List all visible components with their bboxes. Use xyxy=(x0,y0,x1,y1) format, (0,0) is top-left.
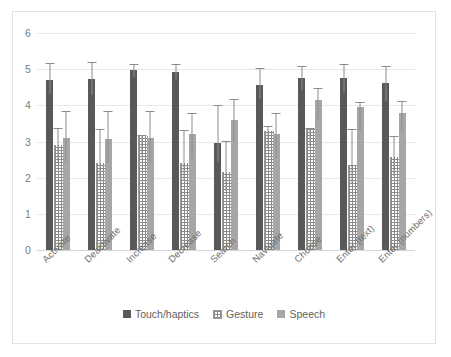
bar-slot xyxy=(130,33,137,250)
error-bar-cap-top xyxy=(305,128,314,129)
error-bar xyxy=(318,88,319,119)
bar-group xyxy=(205,33,247,250)
error-bar-cap-top xyxy=(381,66,390,67)
error-bar xyxy=(150,111,151,163)
bar-slot xyxy=(264,33,271,250)
error-bar-cap-top xyxy=(104,111,113,112)
bar-slot xyxy=(63,33,70,250)
error-bar-cap-top xyxy=(137,135,146,136)
bar-group xyxy=(121,33,163,250)
error-bar-cap-top xyxy=(389,136,398,137)
bar-group xyxy=(289,33,331,250)
bar-slot xyxy=(180,33,187,250)
bar[interactable] xyxy=(172,72,179,250)
error-bar xyxy=(49,63,50,95)
bar-slot xyxy=(222,33,229,250)
bar[interactable] xyxy=(340,78,347,250)
bar-group xyxy=(373,33,415,250)
bar-slot xyxy=(96,33,103,250)
error-bar xyxy=(402,101,403,131)
error-bar xyxy=(301,66,302,91)
bar-slot xyxy=(138,33,145,250)
y-axis-tick-label: 6 xyxy=(25,27,31,39)
error-bar xyxy=(393,136,394,176)
legend-swatch-touch-icon xyxy=(123,310,131,318)
error-bar xyxy=(276,113,277,157)
bar-slot xyxy=(172,33,179,250)
bar-slot xyxy=(147,33,154,250)
error-bar-cap-top xyxy=(179,130,188,131)
bar-slot xyxy=(390,33,397,250)
bar-slot xyxy=(214,33,221,250)
error-bar-cap-top xyxy=(230,99,239,100)
error-bar-cap-top xyxy=(146,111,155,112)
error-bar xyxy=(91,62,92,95)
error-bar-cap-top xyxy=(263,126,272,127)
legend-item[interactable]: Speech xyxy=(277,308,325,320)
error-bar-cap-top xyxy=(221,141,230,142)
bar[interactable] xyxy=(130,70,137,250)
error-bar xyxy=(385,66,386,101)
error-bar xyxy=(351,129,352,183)
legend-swatch-gesture-icon xyxy=(213,310,222,319)
error-bar-cap-top xyxy=(297,66,306,67)
error-bar-cap-top xyxy=(171,64,180,65)
bar-slot xyxy=(231,33,238,250)
error-bar xyxy=(225,141,226,192)
error-bar xyxy=(99,129,100,181)
bar-slot xyxy=(306,33,313,250)
error-bar-cap-top xyxy=(347,129,356,130)
bar-group xyxy=(247,33,289,250)
error-bar xyxy=(133,64,134,77)
bar-slot xyxy=(315,33,322,250)
error-bar xyxy=(57,128,58,163)
error-bar xyxy=(66,111,67,163)
bar-slot xyxy=(256,33,263,250)
plot-area: 0123456 xyxy=(37,33,415,250)
bar-slot xyxy=(46,33,53,250)
bar-slot xyxy=(357,33,364,250)
bar[interactable] xyxy=(256,85,263,250)
error-bar xyxy=(360,102,361,131)
error-bar xyxy=(234,99,235,141)
error-bar-cap-top xyxy=(339,64,348,65)
legend-label: Speech xyxy=(289,308,325,320)
bar[interactable] xyxy=(298,78,305,250)
legend-item[interactable]: Gesture xyxy=(213,308,263,320)
bar[interactable] xyxy=(382,83,389,250)
y-axis-tick-label: 1 xyxy=(25,208,31,220)
y-axis-tick-label: 2 xyxy=(25,172,31,184)
y-axis-tick-label: 4 xyxy=(25,99,31,111)
error-bar xyxy=(175,64,176,79)
legend-swatch-speech-icon xyxy=(277,310,285,318)
error-bar xyxy=(217,105,218,163)
bar-slot xyxy=(399,33,406,250)
error-bar-cap-top xyxy=(213,105,222,106)
bar[interactable] xyxy=(88,79,95,250)
bar-group xyxy=(37,33,79,250)
error-bar-cap-top xyxy=(398,101,407,102)
bar-group xyxy=(163,33,205,250)
error-bar xyxy=(309,128,310,146)
error-bar-cap-top xyxy=(45,63,54,64)
bar[interactable] xyxy=(46,80,53,250)
legend-label: Touch/haptics xyxy=(135,308,199,320)
bar-slot xyxy=(105,33,112,250)
error-bar-cap-top xyxy=(53,128,62,129)
bar-slot xyxy=(54,33,61,250)
error-bar-cap-top xyxy=(95,129,104,130)
legend-item[interactable]: Touch/haptics xyxy=(123,308,199,320)
error-bar xyxy=(259,68,260,98)
chart-legend: Touch/hapticsGestureSpeech xyxy=(13,308,435,320)
bar-slot xyxy=(348,33,355,250)
bar-slot xyxy=(273,33,280,250)
error-bar-cap-top xyxy=(129,64,138,65)
bar-group xyxy=(79,33,121,250)
error-bar-cap-top xyxy=(272,113,281,114)
legend-label: Gesture xyxy=(226,308,263,320)
bar-slot xyxy=(88,33,95,250)
bar-group xyxy=(331,33,373,250)
error-bar-cap-top xyxy=(356,102,365,103)
bar-slot xyxy=(382,33,389,250)
bar[interactable] xyxy=(315,100,322,250)
